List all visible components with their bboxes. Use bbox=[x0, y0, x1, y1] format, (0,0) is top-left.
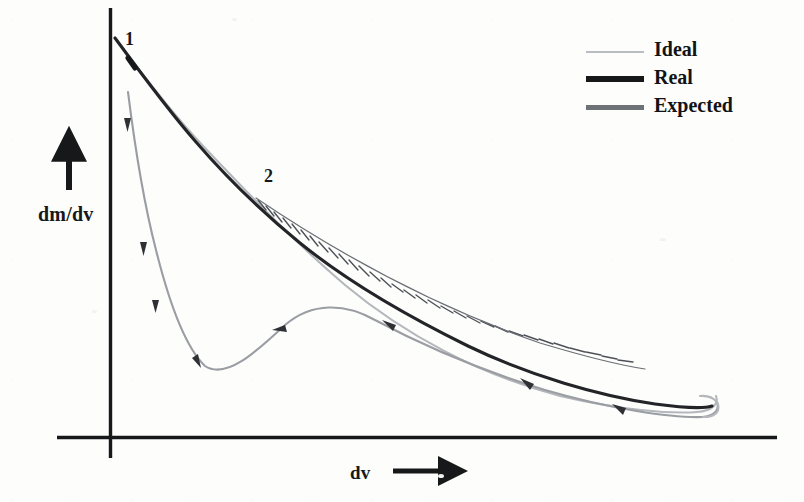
legend-label-expected: Expected bbox=[654, 94, 733, 117]
point-label-1: 1 bbox=[125, 29, 134, 50]
point-label-2: 2 bbox=[264, 166, 273, 187]
legend-swatch-expected bbox=[586, 105, 644, 110]
legend-row-real: Real bbox=[586, 66, 786, 94]
y-axis-label: dm/dv bbox=[38, 203, 93, 226]
legend-swatch-ideal bbox=[586, 51, 644, 53]
legend-swatch-real bbox=[586, 76, 644, 82]
legend-label-real: Real bbox=[654, 66, 693, 89]
legend-row-expected: Expected bbox=[586, 94, 786, 122]
figure-canvas: dm/dv dv 1 2 Ideal Real Expected bbox=[0, 0, 804, 502]
x-axis-label: dv bbox=[350, 462, 370, 484]
legend-label-ideal: Ideal bbox=[654, 38, 697, 61]
legend-row-ideal: Ideal bbox=[586, 38, 786, 66]
legend: Ideal Real Expected bbox=[586, 38, 786, 122]
